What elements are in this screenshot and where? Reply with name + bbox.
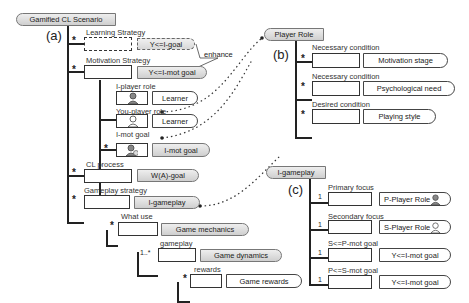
c-item-2-mult: 1 xyxy=(318,249,322,257)
player-filled-icon xyxy=(127,92,139,104)
cl-process-mult: * xyxy=(72,168,76,178)
b-item-0-tag[interactable]: Motivation stage xyxy=(363,53,448,68)
panel-label-c: (c) xyxy=(288,182,303,197)
b-item-0-mult: * xyxy=(301,54,305,64)
b-item-1-mult: * xyxy=(301,82,305,92)
c-item-0-tag-text: P-Player Role xyxy=(384,195,430,204)
you-player-role-tag[interactable]: Learner xyxy=(152,114,198,128)
b-item-2-box[interactable] xyxy=(312,109,360,124)
learning-strategy-tag[interactable]: Y<=I-goal xyxy=(137,38,195,50)
gameplay-strategy-box[interactable] xyxy=(84,195,130,209)
cl-process-label: CL process xyxy=(86,160,124,169)
b-item-2-label: Desired condition xyxy=(312,100,370,109)
gameplay-strategy-mult: * xyxy=(72,195,76,205)
rewards-mult: * xyxy=(183,274,187,284)
learning-strategy-box[interactable] xyxy=(84,37,132,51)
learning-strategy-mult: * xyxy=(72,36,76,46)
c-item-3-label: P<=S-mot goal xyxy=(328,266,378,275)
rewards-box[interactable] xyxy=(190,274,222,288)
player-outline-icon xyxy=(430,222,441,233)
gameplay-tag[interactable]: Game dynamics xyxy=(200,249,282,262)
c-item-2-label: S<=P-mot goal xyxy=(328,239,378,248)
motivation-strategy-label: Motivation Strategy xyxy=(86,56,150,65)
gameplay-strategy-label: Gameplay strategy xyxy=(84,186,147,195)
c-item-3-box[interactable] xyxy=(328,275,372,289)
what-use-box[interactable] xyxy=(118,222,158,236)
panel-label-b: (b) xyxy=(273,47,289,62)
c-item-1-tag-text: S-Player Role xyxy=(384,223,430,232)
you-player-role-box[interactable] xyxy=(116,114,148,128)
cl-process-tag[interactable]: W(A)-goal xyxy=(137,169,199,182)
motivation-strategy-mult: * xyxy=(72,65,76,75)
player-goal-icon xyxy=(126,144,138,156)
cl-process-box[interactable] xyxy=(84,169,132,183)
b-item-2-tag[interactable]: Playing style xyxy=(363,109,436,124)
b-item-0-box[interactable] xyxy=(312,53,360,68)
b-item-1-label: Necessary condition xyxy=(312,72,380,81)
c-item-2-box[interactable] xyxy=(328,248,372,262)
root-gamified-cl-scenario[interactable]: Gamified CL Scenario xyxy=(16,13,116,26)
learning-strategy-label: Learning Strategy xyxy=(86,28,145,37)
root-player-role[interactable]: Player Role xyxy=(264,28,324,41)
enhance-label: enhance xyxy=(204,50,233,59)
c-item-3-tag[interactable]: Y<=I-mot goal xyxy=(379,275,451,289)
b-item-1-box[interactable] xyxy=(312,81,360,96)
motivation-strategy-tag[interactable]: Y<=I-mot goal xyxy=(137,66,207,79)
rewards-label: rewards xyxy=(194,265,221,274)
c-item-0-label: Primary focus xyxy=(328,183,374,192)
c-item-3-mult: 1 xyxy=(318,276,322,284)
what-use-label: What use xyxy=(121,212,153,221)
player-filled-icon xyxy=(430,194,441,205)
root-i-gameplay[interactable]: I-gameplay xyxy=(266,166,326,179)
c-item-0-box[interactable] xyxy=(328,192,372,206)
i-player-role-tag[interactable]: Learner xyxy=(152,91,198,105)
c-item-1-tag[interactable]: S-Player Role xyxy=(379,220,451,234)
player-outline-icon xyxy=(127,115,139,127)
motivation-strategy-box[interactable] xyxy=(84,65,132,79)
i-player-role-box[interactable] xyxy=(116,91,148,105)
i-mot-goal-tag[interactable]: I-mot goal xyxy=(152,143,210,157)
gameplay-box[interactable] xyxy=(158,248,196,262)
c-item-2-tag[interactable]: Y<=I-mot goal xyxy=(379,248,451,262)
c-item-1-mult: 1 xyxy=(318,221,322,229)
c-item-0-mult: 1 xyxy=(318,193,322,201)
gameplay-label: gameplay xyxy=(160,239,193,248)
what-use-mult: * xyxy=(110,221,114,231)
c-item-1-box[interactable] xyxy=(328,220,372,234)
b-item-0-label: Necessary condition xyxy=(312,43,380,52)
b-item-1-tag[interactable]: Psychological need xyxy=(363,81,455,96)
i-player-role-label: I-player role xyxy=(116,82,156,91)
gameplay-strategy-tag[interactable]: I-gameplay xyxy=(134,196,200,209)
what-use-tag[interactable]: Game mechanics xyxy=(161,223,249,236)
i-mot-goal-label: I-mot goal xyxy=(116,130,149,139)
panel-label-a: (a) xyxy=(46,28,62,43)
rewards-tag[interactable]: Game rewards xyxy=(226,274,302,288)
i-mot-goal-box[interactable] xyxy=(116,143,148,157)
i-mot-goal-mult: * xyxy=(104,144,108,154)
c-item-0-tag[interactable]: P-Player Role xyxy=(379,192,451,206)
gameplay-mult: 1..* xyxy=(140,249,151,257)
b-item-2-mult: * xyxy=(301,110,305,120)
